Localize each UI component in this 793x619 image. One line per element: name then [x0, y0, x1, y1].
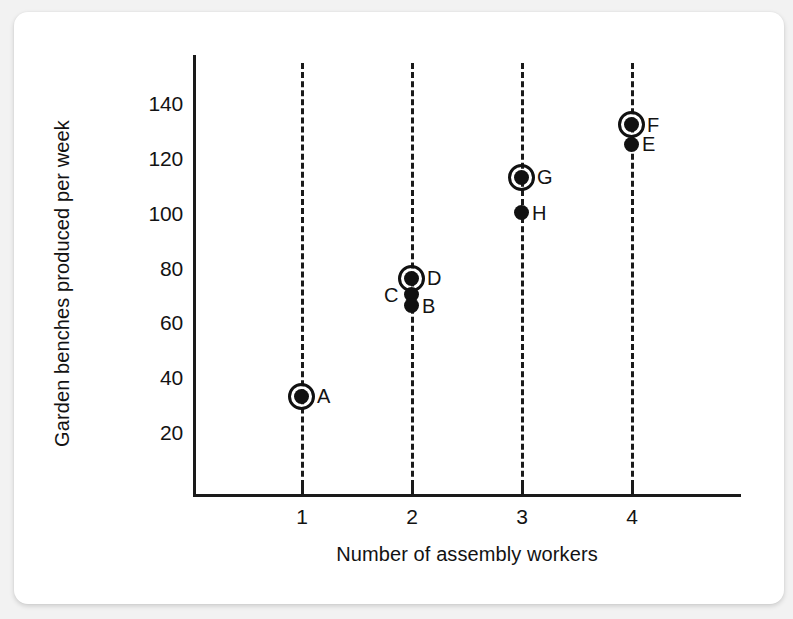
x-tick-mark-1	[301, 486, 304, 495]
data-point-label-a: A	[317, 386, 330, 406]
data-point-b	[404, 298, 419, 313]
gridline-x-1	[301, 63, 304, 495]
y-tick-label-80-wrap: 80	[115, 258, 183, 279]
data-point-label-g: G	[537, 167, 553, 187]
data-point-e	[624, 137, 639, 152]
data-point-label-e: E	[642, 134, 655, 154]
x-axis-title: Number of assembly workers	[193, 543, 741, 566]
x-tick-label-1: 1	[280, 506, 324, 528]
y-tick-label-40: 40	[123, 367, 183, 388]
data-point-d	[404, 271, 419, 286]
y-tick-label-120: 120	[123, 148, 183, 169]
data-point-h	[514, 205, 529, 220]
x-tick-label-3: 3	[500, 506, 544, 528]
y-tick-label-40-wrap: 40	[115, 367, 183, 388]
y-axis-line	[193, 55, 196, 497]
y-tick-label-120-wrap: 120	[115, 148, 183, 169]
gridline-x-3	[521, 63, 524, 495]
y-tick-label-140: 140	[123, 93, 183, 114]
x-tick-mark-2	[411, 486, 414, 495]
data-point-label-b: B	[422, 296, 435, 316]
y-tick-label-60-wrap: 60	[115, 312, 183, 333]
y-tick-label-80: 80	[123, 258, 183, 279]
scatter-plot: 140 120 100 80 60 40 20 1 2 3 4 Number o…	[0, 0, 793, 619]
page-background: 140 120 100 80 60 40 20 1 2 3 4 Number o…	[0, 0, 793, 619]
y-tick-label-60: 60	[123, 312, 183, 333]
y-tick-label-20: 20	[123, 422, 183, 443]
x-axis-line	[193, 494, 741, 497]
y-axis-title: Garden benches produced per week	[51, 54, 74, 514]
y-tick-label-140-wrap: 140	[115, 93, 183, 114]
data-point-g	[514, 170, 529, 185]
x-tick-mark-3	[521, 486, 524, 495]
data-point-label-h: H	[532, 203, 546, 223]
data-point-f	[624, 117, 639, 132]
x-tick-label-4: 4	[610, 506, 654, 528]
data-point-label-c: C	[384, 285, 398, 305]
data-point-a	[294, 389, 309, 404]
x-tick-label-2: 2	[390, 506, 434, 528]
y-tick-label-100: 100	[123, 203, 183, 224]
data-point-label-f: F	[647, 115, 659, 135]
y-tick-label-100-wrap: 100	[115, 203, 183, 224]
x-tick-mark-4	[631, 486, 634, 495]
data-point-label-d: D	[427, 268, 441, 288]
y-tick-label-20-wrap: 20	[115, 422, 183, 443]
